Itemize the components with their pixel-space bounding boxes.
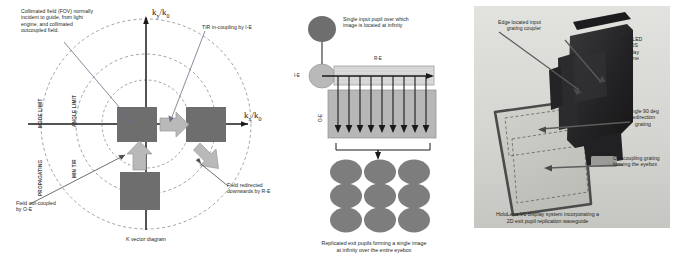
replicated-pupil-grid: [330, 160, 430, 233]
leader-out-coupled: [30, 155, 125, 204]
axis-den: /k: [252, 110, 259, 120]
note-collimated-field: Collimated field (FOV) normally incident…: [21, 8, 126, 33]
eyebox-brace: [336, 143, 430, 156]
y-axis-arrowhead: [143, 16, 149, 24]
panel-pupil-replication: Single input pupil over which image is l…: [290, 0, 455, 263]
caption-line: HoloLens V1 display system incorporating…: [465, 211, 630, 218]
note-outcoupling-grating: Out-coupling grating forming the eyebox: [613, 155, 675, 168]
note-display-engine: RGB LED LCOS display engine: [607, 36, 655, 61]
note-line: image is located at infinity: [343, 22, 438, 28]
pupil-replication-graphics: [290, 0, 455, 215]
label-ie: I-E: [294, 73, 300, 78]
exit-pupil: [364, 160, 396, 185]
note-tir-incoupling: TIR in-coupling by I-E: [202, 24, 292, 30]
note-input-grating-coupler: Edge located input grating coupler: [453, 19, 541, 32]
label-angle-limit: ANGLE LIMIT: [72, 95, 77, 127]
note-line: by O-E: [16, 206, 86, 212]
note-line: engine: [607, 55, 655, 61]
panel-hololens-photo: Edge located input grating coupler RGB L…: [455, 0, 675, 263]
exit-pupil: [364, 208, 396, 233]
note-line: forming the eyebox: [613, 161, 675, 167]
figure-root: Collimated field (FOV) normally incident…: [0, 0, 675, 263]
note-single-input-pupil: Single input pupil over which image is l…: [343, 16, 438, 29]
replicated-ray-arrowheads: [335, 125, 430, 133]
caption-line: 2D exit pupil replication waveguide: [465, 218, 630, 225]
caption-line: at infinity over the entire eyebox: [298, 247, 450, 254]
axis-den-sub: 0: [167, 13, 170, 19]
label-mode-limit: MODE LIMIT: [38, 98, 43, 128]
note-redirection-grating: Single 90 deg redirection grating: [615, 108, 671, 127]
note-out-coupled: Field out-coupled by O-E: [16, 200, 86, 213]
exit-pupil: [330, 160, 362, 185]
exit-pupil: [330, 184, 362, 209]
block-arrow-up: [127, 141, 152, 170]
axis-den: /k: [160, 7, 167, 17]
label-min-tir: MIN TIR: [72, 159, 77, 178]
x-axis-label: kx/k0: [244, 110, 262, 122]
exit-pupil: [364, 184, 396, 209]
kspace-square-right: [186, 107, 226, 142]
caption-k-vector-diagram: K vector diagram: [96, 236, 196, 243]
exit-pupil: [398, 208, 430, 233]
eyebox-brace-arrowhead: [375, 152, 381, 160]
caption-pupil-replication: Replicated exit pupils forming a single …: [298, 240, 450, 254]
caption-hololens-photo: HoloLens V1 display system incorporating…: [465, 211, 630, 225]
kspace-square-bottom: [120, 172, 160, 210]
note-line: TIR in-coupling by I-E: [202, 24, 292, 30]
kspace-square-center: [117, 107, 157, 142]
label-oe: O-E: [318, 114, 323, 122]
exit-pupil: [398, 184, 430, 209]
exit-pupil: [398, 160, 430, 185]
label-re: R-E: [374, 56, 382, 61]
label-propagating: PROPAGATING: [38, 160, 43, 196]
x-axis-arrowhead: [241, 121, 248, 127]
block-arrow-right: [160, 112, 189, 137]
axis-den-sub: 0: [259, 116, 262, 122]
caption-line: Replicated exit pupils forming a single …: [298, 240, 450, 247]
exit-pupil: [330, 208, 362, 233]
input-pupil-ellipse: [308, 16, 336, 42]
panel-k-vector-diagram: Collimated field (FOV) normally incident…: [0, 0, 290, 263]
y-axis-label: ky/k0: [152, 7, 170, 19]
note-line: outcoupled field.: [21, 27, 126, 33]
block-arrow-diagonal: [194, 143, 219, 169]
note-line: grating coupler: [453, 25, 541, 31]
note-line: grating: [615, 121, 671, 127]
leader-out-coupled-arrowhead: [118, 155, 125, 160]
